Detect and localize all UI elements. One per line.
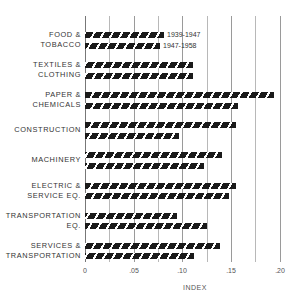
gridline bbox=[255, 16, 256, 262]
bar-1947-1958 bbox=[85, 103, 238, 109]
bar-1947-1958 bbox=[85, 253, 194, 259]
bar-1947-1958 bbox=[85, 163, 204, 169]
category-label: ELECTRIC &SERVICE EQ. bbox=[27, 181, 81, 201]
x-tick-label: 0 bbox=[83, 267, 87, 274]
category-label: MACHINERY bbox=[31, 155, 81, 165]
bar-1947-1958 bbox=[85, 43, 160, 49]
x-tick-label: .20 bbox=[275, 267, 285, 274]
bar-1939-1947 bbox=[85, 32, 164, 38]
legend-label-1947-1958: 1947-1958 bbox=[163, 42, 196, 50]
category-label: TRANSPORTATIONEQ. bbox=[6, 211, 81, 231]
bar-1947-1958 bbox=[85, 73, 193, 79]
x-axis-title: INDEX bbox=[183, 284, 207, 291]
category-label: SERVICES &TRANSPORTATION bbox=[6, 241, 81, 261]
legend-label-1939-1947: 1939-1947 bbox=[167, 31, 200, 39]
gridline bbox=[207, 16, 208, 262]
x-tick-label: .05 bbox=[129, 267, 139, 274]
x-tick-label: .10 bbox=[177, 267, 187, 274]
chart-area: FOOD &TOBACCOTEXTILES &CLOTHINGPAPER &CH… bbox=[0, 0, 296, 298]
bar-1939-1947 bbox=[85, 92, 274, 98]
bar-1947-1958 bbox=[85, 223, 207, 229]
bar-1939-1947 bbox=[85, 213, 177, 219]
bar-1939-1947 bbox=[85, 152, 222, 158]
bar-1947-1958 bbox=[85, 133, 179, 139]
bar-1939-1947 bbox=[85, 243, 220, 249]
category-label: PAPER &CHEMICALS bbox=[32, 90, 81, 110]
x-tick-label: .15 bbox=[226, 267, 236, 274]
category-label: FOOD &TOBACCO bbox=[40, 30, 81, 50]
category-label: CONSTRUCTION bbox=[14, 125, 81, 135]
gridline bbox=[231, 16, 232, 262]
gridline bbox=[280, 16, 281, 262]
bar-1939-1947 bbox=[85, 183, 236, 189]
bar-1939-1947 bbox=[85, 122, 236, 128]
bar-1947-1958 bbox=[85, 193, 229, 199]
bar-1939-1947 bbox=[85, 62, 193, 68]
category-label: TEXTILES &CLOTHING bbox=[33, 60, 81, 80]
